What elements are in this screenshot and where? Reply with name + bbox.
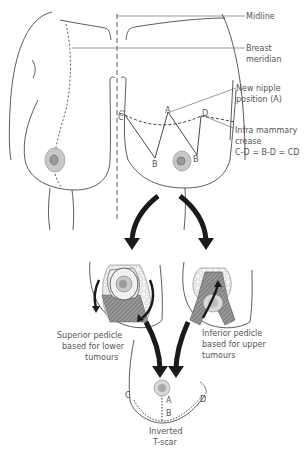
left-shoulder — [60, 20, 111, 40]
label-breast-meridian-2: meridian — [246, 55, 282, 64]
arrow-to-superior-head — [124, 238, 140, 250]
right-torso-lower — [184, 188, 185, 230]
label-new-nipple-2: position (A) — [236, 95, 282, 104]
label-midline: Midline — [246, 12, 275, 21]
left-axilla — [32, 60, 35, 78]
sternal-notch-l — [110, 77, 115, 80]
arrow-superior-to-result — [146, 322, 160, 370]
label-inferior-2: based for upper — [202, 340, 266, 349]
label-inferior-1: Inferior pedicle — [202, 329, 262, 338]
point-b-final: B — [166, 409, 172, 418]
label-tscar-2: T-scar — [152, 438, 178, 447]
point-c: C — [118, 113, 124, 122]
mastopexy-diagram: C A B B D Midline Breast meridian New ni… — [0, 0, 307, 455]
arrow-inferior-to-result-head — [168, 366, 184, 378]
crease-leader — [204, 116, 233, 128]
arrow-superior-to-result-head — [152, 366, 168, 378]
right-breast-outline — [124, 80, 236, 188]
right-shoulder — [126, 18, 225, 40]
superior-pedicle-diagram — [90, 262, 163, 328]
point-c-final: C — [125, 391, 131, 400]
label-infra-mammary-2: crease — [235, 137, 262, 146]
label-superior-1: Superior pedicle — [57, 331, 122, 340]
point-d: D — [202, 109, 208, 118]
label-tscar-1: Inverted — [149, 427, 183, 436]
point-a: A — [165, 106, 171, 115]
point-a-final: A — [166, 396, 172, 405]
right-nipple — [177, 157, 185, 165]
label-infra-mammary-1: Infra mammary — [235, 126, 297, 135]
label-inferior-3: tumours — [202, 351, 235, 360]
left-arm-outline — [9, 12, 52, 160]
torso-top — [9, 12, 245, 230]
left-torso-lower-2 — [72, 190, 74, 230]
wise-pattern-lines — [125, 112, 201, 158]
point-d-final: D — [200, 395, 206, 404]
label-superior-3: tumours — [85, 353, 118, 362]
arrow-inferior-to-result — [176, 322, 188, 370]
arrow-to-inferior — [180, 196, 206, 240]
infra-mammary-crease-dotted — [125, 115, 201, 125]
label-new-nipple-1: New nipple — [236, 84, 281, 93]
left-torso-lower — [49, 188, 51, 230]
label-equation: C-D = B-D = CD — [235, 148, 300, 157]
arrow-to-superior — [132, 196, 158, 240]
point-b-right: B — [193, 155, 199, 164]
arrow-to-inferior-head — [198, 238, 214, 250]
sternal-notch-r — [121, 77, 126, 80]
label-superior-2: based for lower — [62, 342, 125, 351]
left-nipple — [50, 155, 58, 165]
left-breast-outline — [24, 80, 110, 190]
inferior-pedicle-diagram — [183, 262, 252, 328]
label-breast-meridian-1: Breast — [246, 44, 272, 53]
point-b-left: B — [152, 160, 158, 169]
